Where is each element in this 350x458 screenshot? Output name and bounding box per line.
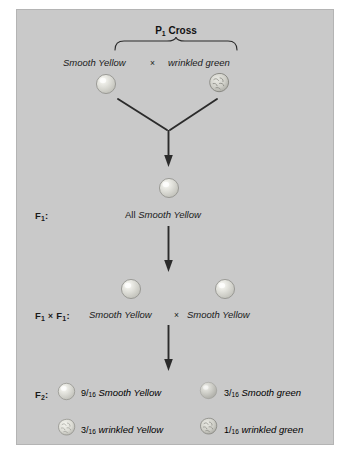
f1cross-stage-label: F1×F1: <box>35 310 70 322</box>
f2-stage-label: F2: <box>35 389 48 401</box>
f2-ratio: 3/16 <box>81 425 96 435</box>
smooth-yellow-pea-icon <box>57 382 76 401</box>
dihybrid-cross-figure: P1 Cross Smooth Yellow × wrinkled green <box>0 0 350 458</box>
f1cross-to-f2-arrow <box>17 325 335 373</box>
f1cross-parent-right-label: Smooth Yellow <box>187 309 250 320</box>
f2-offspring-item: 3/16 Smooth green <box>224 387 301 398</box>
smooth-yellow-pea-icon <box>120 278 142 300</box>
f1-to-f1cross-arrow <box>17 226 335 274</box>
p1-parent-right-label: wrinkled green <box>168 57 230 68</box>
smooth-yellow-pea-icon <box>214 278 236 300</box>
f1cross-cross-symbol: × <box>171 310 182 320</box>
p1-to-f1-arrow <box>17 95 335 187</box>
smooth-green-pea-icon <box>199 381 218 400</box>
f2-ratio: 3/16 <box>224 388 239 398</box>
f1cross-parent-left-label: Smooth Yellow <box>89 309 152 320</box>
f2-ratio: 9/16 <box>81 388 96 398</box>
smooth-yellow-pea-icon <box>158 177 180 199</box>
f2-offspring-item: 1/16 wrinkled green <box>224 424 303 435</box>
wrinkled-green-pea-icon <box>208 72 230 94</box>
f2-phenotype: wrinkled Yellow <box>98 424 163 435</box>
smooth-yellow-pea-icon <box>95 73 117 95</box>
figure-title-text: P1 Cross <box>155 25 197 36</box>
figure-title: P1 Cross <box>17 25 335 37</box>
f2-ratio: 1/16 <box>224 425 239 435</box>
f1-stage-label: F1: <box>35 210 48 222</box>
p1-parent-left-label: Smooth Yellow <box>63 57 126 68</box>
wrinkled-green-pea-icon <box>199 417 218 436</box>
cross-brace <box>113 37 239 51</box>
wrinkled-yellow-pea-icon <box>57 418 76 437</box>
f1-phenotype-label: All Smooth Yellow <box>125 209 201 220</box>
f2-offspring-item: 9/16 Smooth Yellow <box>81 387 161 398</box>
figure-panel: P1 Cross Smooth Yellow × wrinkled green <box>16 9 334 445</box>
f2-phenotype: Smooth Yellow <box>98 387 161 398</box>
f2-offspring-item: 3/16 wrinkled Yellow <box>81 424 163 435</box>
f2-phenotype: Smooth green <box>241 387 301 398</box>
f2-phenotype: wrinkled green <box>241 424 303 435</box>
p1-cross-symbol: × <box>147 58 158 68</box>
